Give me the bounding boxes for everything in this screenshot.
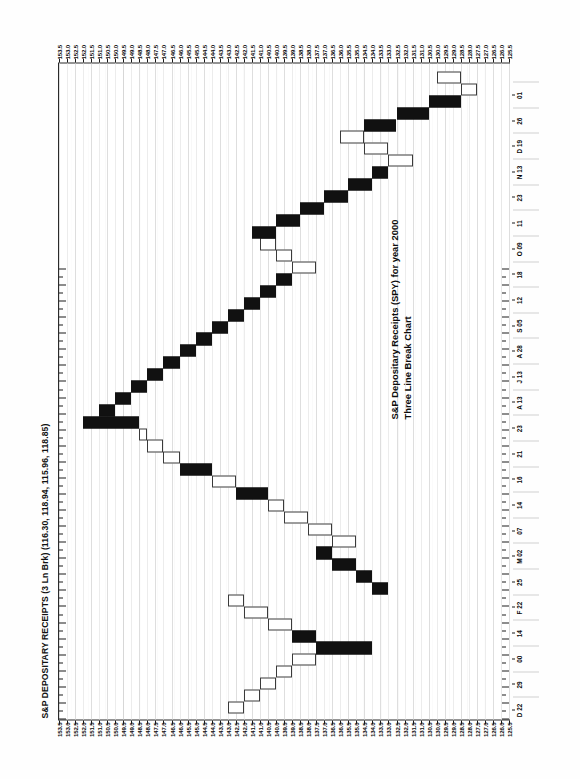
price-tick-label: 149.5 xyxy=(120,45,127,60)
price-tick-mark xyxy=(453,720,454,724)
price-tick-mark xyxy=(244,58,245,62)
minor-tick xyxy=(59,332,66,333)
gridline xyxy=(252,63,253,719)
gridline xyxy=(364,63,365,719)
price-tick-mark xyxy=(99,720,100,724)
chart-subtitle: S&P Depositary Receipts (SPY) for year 2… xyxy=(389,219,414,419)
block-up xyxy=(300,202,324,214)
minor-tick xyxy=(502,678,506,679)
minor-tick xyxy=(502,461,509,462)
price-tick-mark xyxy=(75,58,76,62)
minor-tick xyxy=(502,308,506,309)
date-separator xyxy=(513,594,539,595)
date-tick-mark xyxy=(512,171,515,172)
price-tick-mark xyxy=(276,720,277,724)
minor-tick xyxy=(502,662,506,663)
date-separator xyxy=(513,363,539,364)
price-tick-label: 141.5 xyxy=(248,45,255,60)
price-tick-mark xyxy=(453,58,454,62)
price-tick-mark xyxy=(300,58,301,62)
price-tick-label: 130.0 xyxy=(433,45,440,60)
block-up xyxy=(324,190,348,202)
minor-tick xyxy=(502,292,506,293)
date-separator xyxy=(513,286,539,287)
price-tick-label: 146.5 xyxy=(168,45,175,60)
minor-tick xyxy=(502,589,509,590)
gridline xyxy=(75,63,76,719)
scan-line xyxy=(71,63,72,719)
block-up xyxy=(180,463,212,475)
date-tick-label: A 13 xyxy=(516,396,523,409)
date-tick-label: S 05 xyxy=(516,319,523,332)
block-up xyxy=(292,630,316,642)
tick-comb-bottom xyxy=(502,63,509,719)
minor-tick xyxy=(502,405,506,406)
minor-tick xyxy=(502,372,506,373)
minor-tick xyxy=(59,453,63,454)
date-tick-mark xyxy=(512,94,515,95)
gridline xyxy=(147,63,148,719)
minor-tick xyxy=(59,372,63,373)
date-tick-label: N 13 xyxy=(516,165,523,179)
price-tick-mark xyxy=(316,720,317,724)
minor-tick xyxy=(502,437,506,438)
price-tick-label: 131.0 xyxy=(417,45,424,60)
minor-tick xyxy=(502,718,509,719)
minor-tick xyxy=(502,332,509,333)
rotated-chart-canvas: S&P DEPOSITARY RECEIPTS (3 Ln Brk) (116.… xyxy=(30,17,550,762)
price-tick-mark xyxy=(236,720,237,724)
price-tick-label: 145.0 xyxy=(192,45,199,60)
minor-tick xyxy=(59,348,66,349)
minor-tick xyxy=(59,622,66,623)
date-tick-mark xyxy=(512,530,515,531)
date-tick-label: O 09 xyxy=(516,242,523,256)
block-down xyxy=(364,142,388,154)
price-tick-label: 145.5 xyxy=(184,45,191,60)
minor-tick xyxy=(59,284,66,285)
price-tick-label: 150.5 xyxy=(104,45,111,60)
price-tick-mark xyxy=(163,720,164,724)
price-tick-mark xyxy=(421,720,422,724)
gridline xyxy=(83,63,84,719)
minor-tick xyxy=(502,276,506,277)
date-tick-label: 01 xyxy=(516,91,523,98)
date-separator xyxy=(513,312,539,313)
price-tick-mark xyxy=(180,720,181,724)
minor-tick xyxy=(59,364,66,365)
price-tick-mark xyxy=(509,720,510,724)
minor-tick xyxy=(59,437,63,438)
price-tick-mark xyxy=(260,58,261,62)
block-down xyxy=(276,249,292,261)
minor-tick xyxy=(502,445,509,446)
date-separator xyxy=(513,671,539,672)
scan-line xyxy=(157,63,158,719)
date-tick-mark xyxy=(512,453,515,454)
price-tick-mark xyxy=(421,58,422,62)
price-tick-mark xyxy=(212,720,213,724)
price-tick-mark xyxy=(131,720,132,724)
minor-tick xyxy=(59,421,63,422)
date-separator xyxy=(513,107,539,108)
price-tick-mark xyxy=(131,58,132,62)
date-tick-mark xyxy=(512,658,515,659)
block-up xyxy=(260,285,276,297)
price-tick-mark xyxy=(155,720,156,724)
scan-line xyxy=(415,63,416,719)
minor-tick xyxy=(59,662,63,663)
block-down xyxy=(268,618,292,630)
minor-tick xyxy=(502,389,506,390)
minor-tick xyxy=(59,606,66,607)
price-axis-left: 153.5153.0152.5152.0151.5151.0150.5150.0… xyxy=(58,720,510,762)
minor-tick xyxy=(59,573,66,574)
date-tick-label: 12 xyxy=(516,296,523,303)
minor-tick xyxy=(502,300,509,301)
price-tick-label: 138.0 xyxy=(305,45,312,60)
minor-tick xyxy=(59,541,66,542)
price-tick-label: 126.5 xyxy=(489,45,496,60)
scan-line xyxy=(174,63,175,719)
minor-tick xyxy=(59,308,63,309)
minor-tick xyxy=(59,565,63,566)
gridline xyxy=(485,63,486,719)
minor-tick xyxy=(502,670,509,671)
date-separator xyxy=(513,645,539,646)
